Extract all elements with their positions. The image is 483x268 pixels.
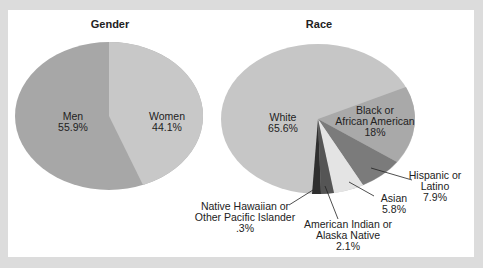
white-pct: 65.6% (258, 123, 308, 134)
american-indian-pct: 2.1% (298, 241, 398, 252)
black-label: Black or African American 18% (330, 105, 420, 138)
men-label: Men 55.9% (48, 111, 98, 133)
white-label: White 65.6% (258, 112, 308, 134)
women-pct: 44.1% (137, 122, 197, 133)
native-hawaiian-label: Native Hawaiian or Other Pacific Islande… (190, 201, 300, 234)
asian-pct: 5.8% (374, 204, 414, 215)
men-pct: 55.9% (48, 122, 98, 133)
black-pct: 18% (330, 127, 420, 138)
american-indian-label: American Indian or Alaska Native 2.1% (298, 219, 398, 252)
gender-chart-title: Gender (84, 18, 136, 30)
women-label: Women 44.1% (137, 111, 197, 133)
native-hawaiian-pct: .3% (190, 223, 300, 234)
asian-label: Asian 5.8% (374, 193, 414, 215)
race-chart-title: Race (295, 18, 343, 30)
